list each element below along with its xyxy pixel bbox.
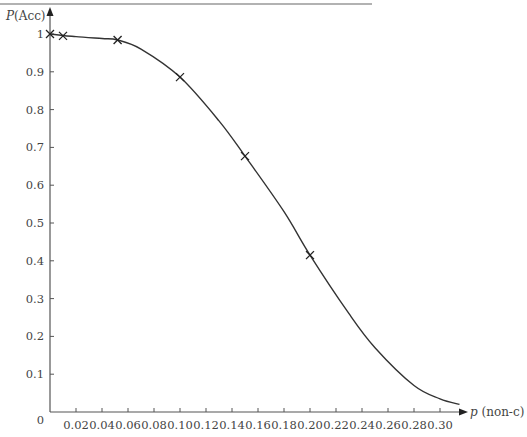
x-tick-label: 0.24: [349, 418, 375, 432]
x-tick-label: 0.18: [271, 418, 297, 432]
oc-curve: [50, 34, 460, 404]
cross-marker-icon: [306, 251, 314, 259]
x-tick-label: 0.30: [427, 418, 453, 432]
x-tick-label: 0.20: [297, 418, 323, 432]
x-tick-label: 0.14: [219, 418, 245, 432]
x-tick-label: 0.08: [141, 418, 167, 432]
y-tick-label: 0.5: [26, 216, 44, 230]
y-tick-label: 0.7: [26, 140, 44, 154]
y-tick-label: 0.2: [26, 329, 44, 343]
y-tick-label: 0.9: [26, 65, 44, 79]
y-tick-label: 0.8: [26, 103, 44, 117]
x-tick-label: 0.26: [375, 418, 401, 432]
data-point-markers: [46, 30, 314, 259]
y-axis-title: P(Acc): [5, 9, 46, 23]
x-tick-label: 0.06: [115, 418, 141, 432]
x-tick-label: 0.16: [245, 418, 271, 432]
y-tick-label: 1: [37, 27, 44, 41]
oc-chart: 0.020.040.060.080.100.120.140.160.180.20…: [0, 0, 527, 437]
x-tick-label: 0.12: [193, 418, 219, 432]
y-tick-label: 0.4: [26, 254, 44, 268]
y-axis-unit: (Acc): [14, 9, 45, 23]
x-axis-arrow-icon: [459, 409, 468, 416]
x-tick-label: 0.28: [401, 418, 427, 432]
cross-marker-icon: [241, 152, 249, 160]
origin-label: 0: [37, 413, 44, 427]
y-tick-label: 0.1: [26, 367, 44, 381]
y-tick-label: 0.6: [26, 178, 44, 192]
x-tick-label: 0.22: [323, 418, 349, 432]
x-tick-label: 0.10: [167, 418, 193, 432]
x-axis-unit: (non-c): [478, 405, 525, 419]
x-axis-title: p (non-c): [470, 405, 524, 419]
axes: [47, 7, 469, 416]
x-tick-label: 0.04: [89, 418, 115, 432]
y-axis-arrow-icon: [47, 7, 54, 16]
y-tick-label: 0.3: [26, 292, 44, 306]
cross-marker-icon: [176, 73, 184, 81]
x-tick-label: 0.02: [63, 418, 89, 432]
